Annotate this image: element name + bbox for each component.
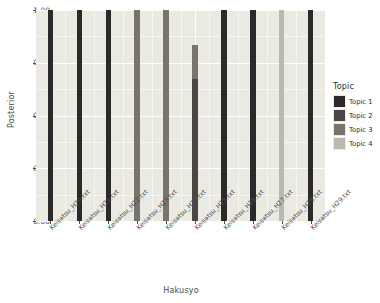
bar-segment xyxy=(77,10,83,221)
legend-key xyxy=(333,109,346,122)
legend-swatch xyxy=(334,124,345,135)
grid-line-minor-v xyxy=(181,10,182,221)
bar-segment xyxy=(221,10,227,221)
bar-segment xyxy=(134,10,140,221)
legend-key xyxy=(333,137,346,150)
grid-line-minor-v xyxy=(123,10,124,221)
posterior-topic-bar-chart: Posterior 0.000.250.500.751.00 Keisatsu_… xyxy=(0,0,380,303)
legend-item: Topic 4 xyxy=(333,137,380,150)
legend-key xyxy=(333,95,346,108)
legend: Topic Topic 1Topic 2Topic 3Topic 4 xyxy=(333,82,380,151)
x-axis-title: Hakusyo xyxy=(36,286,326,295)
legend-item: Topic 1 xyxy=(333,95,380,108)
bar-segment xyxy=(163,10,169,221)
bar-segment xyxy=(106,10,112,221)
legend-title: Topic xyxy=(333,82,380,91)
bar-segment xyxy=(192,45,198,79)
bar-segment xyxy=(279,10,285,221)
legend-item: Topic 2 xyxy=(333,109,380,122)
bar-segment xyxy=(48,10,54,221)
legend-label: Topic 3 xyxy=(349,126,373,134)
grid-line-minor-v xyxy=(65,10,66,221)
grid-line-minor-v xyxy=(296,10,297,221)
legend-swatch xyxy=(334,110,345,121)
bar-segment xyxy=(308,10,314,221)
y-axis-title: Posterior xyxy=(7,75,16,145)
legend-swatch xyxy=(334,138,345,149)
grid-line-minor-v xyxy=(238,10,239,221)
grid-line-minor-v xyxy=(152,10,153,221)
grid-line-minor-v xyxy=(209,10,210,221)
legend-swatch xyxy=(334,96,345,107)
legend-label: Topic 1 xyxy=(349,98,373,106)
legend-label: Topic 4 xyxy=(349,140,373,148)
legend-key xyxy=(333,123,346,136)
plot-panel xyxy=(36,10,325,221)
grid-line-minor-v xyxy=(94,10,95,221)
legend-item: Topic 3 xyxy=(333,123,380,136)
legend-label: Topic 2 xyxy=(349,112,373,120)
legend-items: Topic 1Topic 2Topic 3Topic 4 xyxy=(333,95,380,150)
bar-segment xyxy=(250,10,256,221)
grid-line-minor-v xyxy=(267,10,268,221)
